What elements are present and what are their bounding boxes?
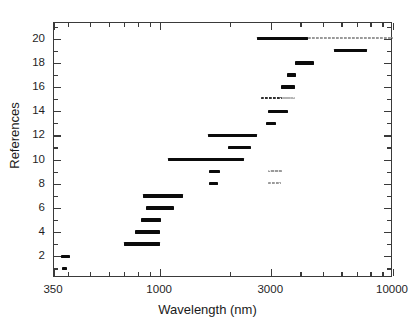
x-tick-minor — [109, 272, 110, 276]
y-tick-minor-right — [387, 123, 391, 124]
x-tick-minor — [230, 272, 231, 276]
reference-range-bar — [308, 37, 393, 39]
reference-range-bar — [282, 97, 295, 99]
x-tick-minor — [357, 272, 358, 276]
y-tick-major-right — [384, 160, 391, 161]
y-tick-major-right — [384, 111, 391, 112]
y-tick-minor-right — [387, 172, 391, 173]
data-bars — [54, 23, 391, 276]
reference-range-bar — [287, 73, 297, 76]
axis-ticks — [54, 23, 391, 276]
y-tick-label: 10 — [19, 153, 45, 165]
reference-range-bar — [143, 194, 183, 197]
y-tick-major — [54, 111, 61, 112]
reference-range-bar — [257, 37, 308, 40]
x-tick-minor — [382, 272, 383, 276]
x-tick-minor — [323, 272, 324, 276]
reference-range-bar — [228, 146, 251, 149]
y-tick-label: 16 — [19, 80, 45, 92]
reference-range-bar — [268, 110, 288, 113]
y-tick-minor-right — [387, 220, 391, 221]
y-tick-major-right — [384, 256, 391, 257]
y-tick-major-right — [384, 184, 391, 185]
y-tick-minor-right — [387, 244, 391, 245]
y-tick-major — [54, 87, 61, 88]
y-tick-minor-right — [387, 51, 391, 52]
reference-range-bar — [208, 134, 257, 137]
y-tick-minor — [54, 147, 58, 148]
x-tick-minor-top — [124, 23, 125, 27]
y-tick-minor-right — [387, 196, 391, 197]
reference-range-bar — [146, 206, 174, 209]
y-tick-major-right — [384, 232, 391, 233]
reference-range-bar — [295, 61, 314, 64]
y-tick-major — [54, 232, 61, 233]
reference-range-bar — [168, 158, 244, 161]
y-tick-minor-right — [387, 99, 391, 100]
reference-range-bar — [268, 170, 283, 172]
y-tick-major-right — [384, 208, 391, 209]
y-tick-major — [54, 256, 61, 257]
x-tick-major-top — [54, 23, 55, 30]
y-tick-label: 4 — [19, 225, 45, 237]
y-tick-label: 20 — [19, 32, 45, 44]
y-tick-label: 12 — [19, 128, 45, 140]
y-tick-minor — [54, 75, 58, 76]
x-tick-minor — [124, 272, 125, 276]
y-tick-label: 6 — [19, 201, 45, 213]
y-tick-major-right — [384, 87, 391, 88]
reference-range-bar — [281, 85, 295, 88]
reference-range-bar — [261, 97, 283, 99]
x-tick-minor-top — [323, 23, 324, 27]
plot-area — [53, 22, 392, 277]
x-tick-major-top — [271, 23, 272, 30]
x-tick-minor-top — [90, 23, 91, 27]
x-tick-major-top — [393, 23, 394, 30]
y-tick-minor-right — [387, 75, 391, 76]
figure-canvas: 3501000300010000 2468101214161820 Wavele… — [0, 0, 415, 329]
y-tick-label: 18 — [19, 56, 45, 68]
x-tick-minor — [341, 272, 342, 276]
reference-range-bar — [61, 255, 70, 258]
x-tick-label: 10000 — [376, 283, 408, 295]
x-tick-major — [54, 269, 55, 276]
y-tick-minor-right — [387, 147, 391, 148]
x-tick-minor — [370, 272, 371, 276]
x-tick-major — [393, 269, 394, 276]
x-tick-minor-top — [150, 23, 151, 27]
reference-range-bar — [268, 182, 281, 184]
y-tick-label: 8 — [19, 177, 45, 189]
reference-range-bar — [209, 170, 220, 173]
x-tick-label: 350 — [43, 283, 62, 295]
x-tick-label: 1000 — [146, 283, 172, 295]
reference-range-bar — [141, 218, 161, 221]
y-tick-major-right — [384, 135, 391, 136]
y-tick-major — [54, 135, 61, 136]
x-axis-title: Wavelength (nm) — [0, 302, 415, 317]
reference-range-bar — [266, 122, 276, 125]
x-tick-major — [160, 269, 161, 276]
x-tick-minor-top — [300, 23, 301, 27]
x-tick-minor — [138, 272, 139, 276]
x-tick-minor — [90, 272, 91, 276]
reference-range-bar — [62, 267, 67, 270]
y-tick-minor — [54, 27, 58, 28]
x-tick-minor — [150, 272, 151, 276]
x-tick-minor-top — [382, 23, 383, 27]
y-tick-major — [54, 208, 61, 209]
x-tick-minor-top — [370, 23, 371, 27]
y-tick-minor — [54, 123, 58, 124]
y-tick-major — [54, 160, 61, 161]
y-tick-minor — [54, 196, 58, 197]
y-tick-minor — [54, 220, 58, 221]
x-tick-minor-top — [138, 23, 139, 27]
x-tick-minor — [68, 272, 69, 276]
x-tick-major — [271, 269, 272, 276]
y-axis-title: References — [7, 76, 22, 196]
y-tick-major-right — [384, 39, 391, 40]
x-tick-minor-top — [109, 23, 110, 27]
y-tick-minor — [54, 268, 58, 269]
x-tick-major-top — [160, 23, 161, 30]
reference-range-bar — [209, 182, 219, 185]
y-tick-minor — [54, 172, 58, 173]
